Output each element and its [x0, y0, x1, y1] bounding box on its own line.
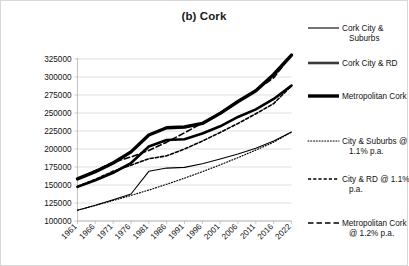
y-axis-tick-label: 250000 — [44, 109, 72, 118]
y-axis-tick-label: 125000 — [44, 199, 72, 208]
y-axis-tick-label: 325000 — [44, 55, 72, 64]
x-axis-tick-label: 1996 — [185, 222, 205, 242]
legend-label-6: Metropolitan Cork — [342, 219, 408, 228]
series-line-cork-city-rd — [78, 86, 292, 187]
legend-label-1-line2: Suburbs — [349, 34, 380, 43]
axis-group — [75, 58, 292, 224]
legend-label-3: Metropolitan Cork — [342, 92, 408, 101]
ytick-labels-group: 1000001250001500001750002000002250002500… — [44, 55, 72, 226]
series-line-city-rd-1-1-p-a — [78, 86, 292, 187]
x-axis-tick-label: 2011 — [238, 222, 257, 241]
y-axis-tick-label: 150000 — [44, 181, 72, 190]
y-axis-tick-label: 225000 — [44, 127, 72, 136]
chart-plot-svg: 1000001250001500001750002000002250002500… — [1, 1, 409, 266]
legend-label-4-line2: 1.1% p.a. — [349, 147, 384, 156]
series-line-metropolitan-cork — [78, 55, 292, 179]
x-axis-tick-label: 1966 — [78, 222, 98, 242]
series-line-city-suburbs-1-1-p-a — [78, 132, 292, 210]
legend-label-6-line2: @ 1.2% p.a. — [349, 229, 394, 238]
y-axis-tick-label: 200000 — [44, 145, 72, 154]
legend-label-5: City & RD @ 1.1% — [342, 175, 409, 184]
x-axis-tick-label: 1986 — [149, 222, 169, 242]
xtick-labels-group: 1961196619711976198119861991199620012006… — [60, 222, 294, 242]
y-axis-tick-label: 100000 — [44, 217, 72, 226]
legend-group: Cork City &SuburbsCork City & RDMetropol… — [308, 24, 409, 238]
x-axis-tick-label: 2001 — [202, 222, 222, 242]
y-axis-tick-label: 275000 — [44, 91, 72, 100]
x-axis-tick-label: 2022 — [274, 222, 294, 242]
x-axis-tick-label: 1981 — [131, 222, 151, 242]
x-axis-tick-label: 1991 — [167, 222, 187, 242]
x-axis-tick-label: 1971 — [95, 222, 115, 242]
series-line-cork-city-suburbs — [78, 132, 292, 210]
legend-label-5-line2: p.a. — [349, 185, 363, 194]
x-axis-tick-label: 2006 — [220, 222, 240, 242]
series-line-metropolitan-cork-1-2-p-a — [78, 55, 292, 179]
x-axis-tick-label: 2016 — [256, 222, 276, 242]
x-axis-tick-label: 1976 — [113, 222, 133, 242]
legend-label-1: Cork City & — [342, 24, 384, 33]
legend-label-4: City & Suburbs @ — [342, 137, 407, 146]
series-group — [78, 55, 292, 210]
legend-label-2: Cork City & RD — [342, 59, 398, 68]
y-axis-tick-label: 300000 — [44, 73, 72, 82]
y-axis-tick-label: 175000 — [44, 163, 72, 172]
